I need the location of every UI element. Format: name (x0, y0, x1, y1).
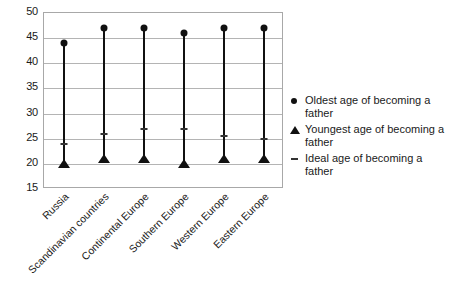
legend-item-label: Ideal age of becoming a father (305, 152, 453, 177)
gridline (44, 139, 282, 140)
marker-oldest-age (61, 40, 68, 47)
y-axis-tick-label: 20 (8, 157, 38, 168)
dash-icon (288, 152, 302, 165)
marker-youngest-age (138, 154, 150, 163)
legend-item-label: Youngest age of becoming a father (305, 123, 453, 148)
gridline (44, 164, 282, 165)
marker-oldest-age (221, 25, 228, 32)
gridline (44, 114, 282, 115)
marker-youngest-age (98, 154, 110, 163)
marker-ideal-age (221, 135, 228, 137)
marker-ideal-age (61, 143, 68, 145)
marker-ideal-age (181, 128, 188, 130)
y-axis-tick-label: 25 (8, 132, 38, 143)
range-stem (263, 28, 265, 161)
triangle-icon (288, 123, 302, 136)
range-stem (103, 28, 105, 161)
marker-oldest-age (141, 25, 148, 32)
marker-ideal-age (261, 138, 268, 140)
marker-youngest-age (58, 159, 70, 168)
marker-oldest-age (261, 25, 268, 32)
marker-oldest-age (101, 25, 108, 32)
marker-ideal-age (141, 128, 148, 130)
chart-legend: Oldest age of becoming a fatherYoungest … (288, 94, 456, 181)
range-stem (63, 43, 65, 166)
marker-youngest-age (218, 154, 230, 163)
y-axis-tick-label: 35 (8, 81, 38, 92)
range-stem (143, 28, 145, 161)
marker-oldest-age (181, 30, 188, 37)
chart-figure: 1520253035404550 RussiaScandinavian coun… (0, 0, 456, 287)
circle-icon (288, 94, 302, 107)
y-axis-tick-label: 30 (8, 107, 38, 118)
range-stem (223, 28, 225, 161)
range-stem (183, 33, 185, 166)
plot-area (43, 12, 283, 188)
y-axis-tick-label: 40 (8, 56, 38, 67)
y-axis-tick-label: 45 (8, 31, 38, 42)
legend-item-label: Oldest age of becoming a father (305, 94, 453, 119)
marker-ideal-age (101, 133, 108, 135)
marker-youngest-age (258, 154, 270, 163)
gridline (44, 88, 282, 89)
legend-item: Ideal age of becoming a father (288, 152, 456, 177)
legend-item: Youngest age of becoming a father (288, 123, 456, 148)
gridline (44, 38, 282, 39)
marker-youngest-age (178, 159, 190, 168)
y-axis-tick-label: 15 (8, 182, 38, 193)
legend-item: Oldest age of becoming a father (288, 94, 456, 119)
gridline (44, 63, 282, 64)
y-axis-tick-label: 50 (8, 6, 38, 17)
